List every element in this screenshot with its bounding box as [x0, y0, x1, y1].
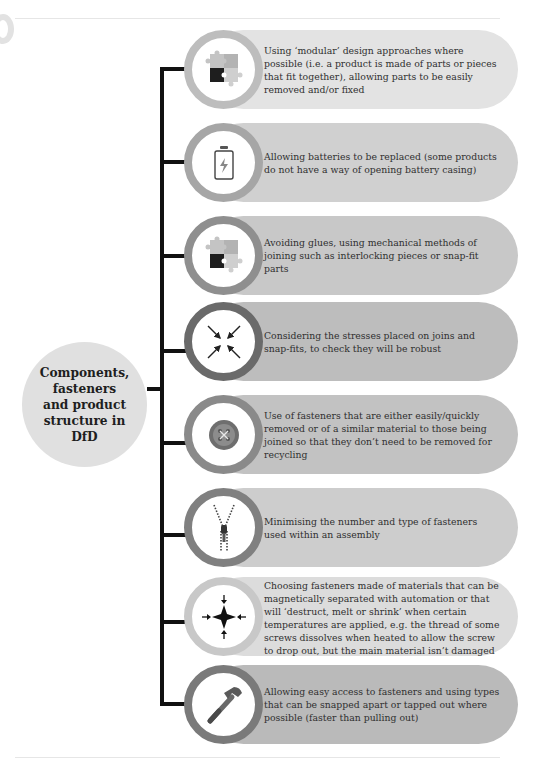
principle-text: Using ‘modular’ design approaches where … — [264, 44, 500, 96]
principle-text: Considering the stresses placed on joins… — [264, 329, 500, 355]
principle-text: Use of fasteners that are either easily/… — [264, 409, 500, 461]
principle-item-minimising-fasteners: Minimising the number and type of fasten… — [184, 488, 518, 567]
top-divider — [15, 18, 500, 19]
principle-item-avoiding-glues: Avoiding glues, using mechanical methods… — [184, 216, 518, 295]
principle-icon-badge — [184, 216, 263, 295]
stress-arrows-icon — [204, 322, 244, 362]
principle-icon-badge — [184, 577, 263, 656]
principle-icon-badge — [184, 302, 263, 381]
principle-text: Avoiding glues, using mechanical methods… — [264, 236, 500, 275]
principle-icon-badge — [184, 488, 263, 567]
principle-item-batteries: Allowing batteries to be replaced (some … — [184, 123, 518, 202]
principle-item-easy-access: Allowing easy access to fasteners and us… — [184, 665, 518, 744]
principle-text: Allowing easy access to fasteners and us… — [264, 685, 500, 724]
central-topic-hub: Components, fasteners and product struct… — [22, 342, 147, 467]
principle-icon-badge — [184, 30, 263, 109]
central-topic-title: Components, fasteners and product struct… — [30, 365, 140, 445]
corner-decoration — [0, 14, 14, 44]
zipper-icon — [204, 503, 244, 553]
principle-item-active-disassembly: Choosing fasteners made of materials tha… — [184, 577, 518, 656]
button-fastener-icon — [204, 415, 244, 455]
principle-item-removable-fasteners: Use of fasteners that are either easily/… — [184, 395, 518, 474]
principle-icon-badge — [184, 395, 263, 474]
bottom-divider — [15, 757, 500, 758]
principle-text: Minimising the number and type of fasten… — [264, 515, 500, 541]
hammer-icon — [202, 683, 246, 727]
principle-item-stresses: Considering the stresses placed on joins… — [184, 302, 518, 381]
principle-item-modular: Using ‘modular’ design approaches where … — [184, 30, 518, 109]
puzzle-icon — [204, 236, 244, 276]
principle-icon-badge — [184, 123, 263, 202]
principle-text: Allowing batteries to be replaced (some … — [264, 150, 500, 176]
principle-text: Choosing fasteners made of materials tha… — [264, 579, 500, 657]
implode-star-icon — [202, 595, 246, 639]
principle-icon-badge — [184, 665, 263, 744]
battery-icon — [204, 143, 244, 183]
puzzle-icon — [204, 50, 244, 90]
